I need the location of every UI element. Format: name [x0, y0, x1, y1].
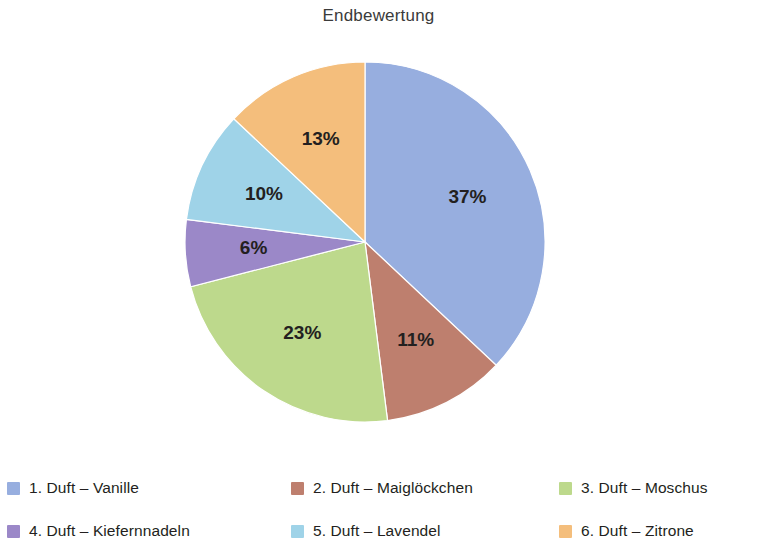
legend-swatch-icon	[291, 482, 304, 495]
legend-item-label: 4. Duft – Kiefernnadeln	[29, 522, 190, 540]
pie-data-label: 23%	[283, 322, 321, 343]
legend-item-6[interactable]: 6. Duft – Zitrone	[559, 517, 694, 545]
legend-item-label: 6. Duft – Zitrone	[581, 522, 694, 540]
legend-item-4[interactable]: 4. Duft – Kiefernnadeln	[7, 517, 190, 545]
pie-chart-plot-area: 37%11%23%6%10%13%	[145, 40, 585, 460]
legend-item-2[interactable]: 2. Duft – Maiglöckchen	[291, 474, 473, 502]
pie-data-label: 37%	[448, 186, 486, 207]
legend-item-label: 3. Duft – Moschus	[581, 479, 708, 497]
pie-data-label: 10%	[245, 183, 283, 204]
legend-item-3[interactable]: 3. Duft – Moschus	[559, 474, 708, 502]
legend-row: 4. Duft – Kiefernnadeln 5. Duft – Lavend…	[0, 517, 757, 555]
pie-chart-svg: 37%11%23%6%10%13%	[145, 40, 585, 460]
legend-swatch-icon	[7, 525, 20, 538]
chart-legend: 1. Duft – Vanille 2. Duft – Maiglöckchen…	[0, 472, 757, 555]
legend-item-label: 5. Duft – Lavendel	[313, 522, 441, 540]
pie-data-label: 13%	[302, 128, 340, 149]
legend-swatch-icon	[559, 525, 572, 538]
legend-swatch-icon	[291, 525, 304, 538]
pie-data-label: 6%	[240, 237, 268, 258]
legend-row: 1. Duft – Vanille 2. Duft – Maiglöckchen…	[0, 474, 757, 514]
pie-data-label: 11%	[397, 329, 434, 350]
legend-item-1[interactable]: 1. Duft – Vanille	[7, 474, 139, 502]
legend-item-label: 2. Duft – Maiglöckchen	[313, 479, 473, 497]
legend-item-5[interactable]: 5. Duft – Lavendel	[291, 517, 441, 545]
pie-chart-figure: Endbewertung 37%11%23%6%10%13% 1. Duft –…	[0, 0, 757, 555]
chart-title: Endbewertung	[0, 6, 757, 26]
legend-swatch-icon	[7, 482, 20, 495]
legend-item-label: 1. Duft – Vanille	[29, 479, 139, 497]
legend-swatch-icon	[559, 482, 572, 495]
